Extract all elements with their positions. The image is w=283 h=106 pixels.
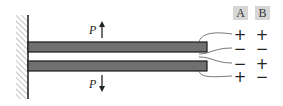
arrow-up-icon	[99, 21, 105, 27]
top-beam-layer	[28, 42, 207, 52]
svg-text:+: +	[234, 68, 247, 86]
force-label-bottom: P	[88, 77, 97, 91]
force-up: P	[88, 21, 105, 38]
fixed-wall	[16, 15, 28, 99]
polarity-column-a: + − − +	[234, 26, 247, 86]
bottom-beam-layer	[28, 61, 207, 71]
svg-text:−: −	[256, 68, 269, 86]
arrow-down-icon	[99, 86, 105, 92]
svg-text:A: A	[236, 6, 245, 20]
svg-text:B: B	[258, 6, 266, 20]
force-down: P	[88, 75, 105, 92]
column-header-b: B	[255, 6, 270, 20]
force-label-top: P	[88, 23, 97, 37]
column-header-a: A	[233, 6, 248, 20]
bimorph-diagram: P P A B + − − + + − + −	[0, 0, 283, 106]
polarity-column-b: + − + −	[256, 26, 269, 86]
